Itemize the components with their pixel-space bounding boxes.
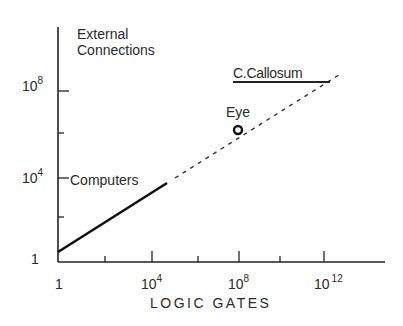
y-tick-label-1: 1: [31, 251, 39, 267]
x-tick-label-1e8: 108: [228, 273, 250, 292]
x-axis-title: LOGIC GATES: [150, 295, 271, 311]
eye-label: Eye: [226, 104, 250, 120]
x-ticks: [105, 251, 324, 262]
x-tick-label-1e12: 1012: [314, 273, 343, 292]
y-tick-label-1e8: 108: [22, 75, 44, 94]
c-callosum-label: C.Callosum: [233, 65, 302, 81]
y-axis-title-line2: Connections: [77, 42, 155, 58]
computers-line: [58, 183, 167, 252]
x-tick-label-1: 1: [55, 276, 63, 292]
y-tick-label-1e4: 104: [22, 167, 44, 186]
extrapolation-dashed-line: [175, 73, 342, 178]
eye-marker: [234, 126, 242, 134]
computers-label: Computers: [70, 172, 138, 188]
y-ticks: [58, 91, 69, 217]
y-axis-title-line1: External: [77, 26, 128, 42]
x-tick-label-1e4: 104: [141, 273, 163, 292]
log-log-chart: 108 104 1 1 104 108 1012 External Connec…: [0, 0, 403, 326]
